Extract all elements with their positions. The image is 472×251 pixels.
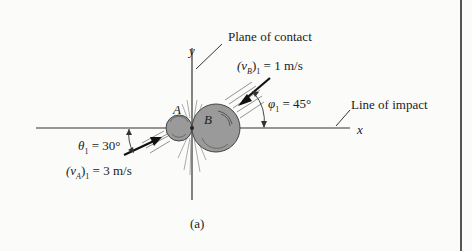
theta-angle-arc	[126, 129, 134, 153]
x-axis-label: x	[357, 123, 363, 136]
velocity-arrow-a	[124, 137, 162, 155]
phi-angle-arc	[252, 91, 267, 128]
ball-b-label: B	[204, 113, 212, 126]
contact-point	[190, 126, 194, 130]
ball-b	[192, 104, 240, 152]
vB-label: (vB)1 = 1 m/s	[237, 59, 303, 76]
plane-of-contact-leader	[196, 44, 222, 69]
ball-a-label: A	[173, 103, 181, 116]
y-axis-label: y	[189, 44, 195, 57]
plane-of-contact-label: Plane of contact	[228, 30, 312, 43]
vA-label: (vA)1 = 3 m/s	[66, 164, 132, 181]
figure-caption: (a)	[190, 217, 204, 230]
figure-border-right	[460, 0, 462, 251]
line-of-impact-leader	[336, 110, 350, 126]
line-of-impact-label: Line of impact	[351, 98, 428, 111]
phi-label: φ1 = 45°	[268, 97, 311, 114]
theta-label: θ1 = 30°	[78, 139, 120, 156]
